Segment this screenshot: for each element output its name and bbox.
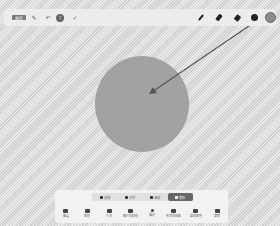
tool-layers[interactable]: 图层 [57,204,75,222]
brush-dot-icon [251,14,258,21]
image-icon [128,209,133,213]
redo-icon[interactable]: ✓ [70,9,80,26]
tool-label: 填充颜色 [190,214,202,218]
pen-medium-icon [215,14,223,22]
layers-icon [63,209,68,213]
text-icon [107,209,112,213]
mode-label: 箭头 [179,195,185,200]
tool-shapes[interactable]: 形状和线条 [165,204,183,222]
tool-label: 清除 [214,214,220,218]
mode-label[interactable]: 画布 [12,15,26,20]
pin-icon[interactable]: ✎ [29,9,39,26]
help-button[interactable]: ? [54,9,66,26]
help-icon: ? [56,14,64,22]
tool-label: 图片和贴纸 [123,214,138,218]
tool-stroke[interactable]: 描边 [143,204,161,222]
tool-label: 描边 [149,213,155,217]
tool-fill[interactable]: 填充颜色 [187,204,205,222]
tool-text[interactable]: 文本 [100,204,118,222]
tool-row: 图层 矩形 文本 图片和贴纸 描边 形状和线条 填充颜色 清除 [55,204,228,222]
mode-label: 形状 [129,195,135,200]
tool-label: 文本 [106,214,112,218]
shapes-icon [171,209,176,213]
fill-icon [193,209,198,213]
mode-label: 画笔 [104,195,110,200]
mode-eraser[interactable]: 橡皮 [143,193,168,201]
tool-label: 图层 [63,214,69,218]
pen-mode-icon [100,196,103,199]
brush-dot-button[interactable] [249,9,259,26]
mode-pen[interactable]: 画笔 [92,193,117,201]
pen-thick-button[interactable] [232,9,242,26]
shape-mode-icon [125,196,128,199]
tool-clear[interactable]: 清除 [208,204,226,222]
color-swatch-icon [265,12,276,23]
mode-label: 橡皮 [154,195,160,200]
tool-label: 矩形 [84,214,90,218]
rectangle-icon [85,209,90,213]
pen-thin-icon [198,14,204,21]
tool-label: 形状和线条 [166,214,181,218]
bottom-tool-panel: 画笔 形状 橡皮 箭头 图层 矩形 文本 图片和贴纸 描边 形状和线条 填充颜色… [55,190,228,223]
mode-shape[interactable]: 形状 [117,193,142,201]
mode-arrow[interactable]: 箭头 [168,193,193,201]
tool-rectangle[interactable]: 矩形 [78,204,96,222]
clear-icon [215,209,220,213]
stroke-icon [151,209,154,212]
pen-medium-button[interactable] [214,9,224,26]
tool-images[interactable]: 图片和贴纸 [122,204,140,222]
arrow-mode-icon [175,196,178,199]
undo-icon[interactable]: ↶ [43,9,53,26]
pen-thick-icon [233,14,241,22]
eraser-mode-icon [150,196,153,199]
mode-switcher: 画笔 形状 橡皮 箭头 [92,193,193,201]
circle-shape[interactable] [95,56,189,152]
pen-thin-button[interactable] [196,9,206,26]
top-toolbar: 画布 ✎ ↶ ? ✓ [4,9,276,26]
color-picker[interactable] [264,9,276,26]
